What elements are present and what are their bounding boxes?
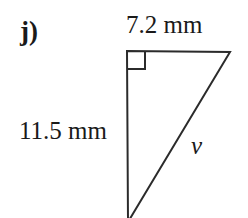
top-side-measurement-label: 7.2 mm xyxy=(126,12,202,37)
right-angle-marker-icon xyxy=(127,51,145,69)
hypotenuse-variable-label: v xyxy=(191,133,202,158)
left-side-measurement-label: 11.5 mm xyxy=(19,118,107,143)
right-triangle-shape xyxy=(127,51,230,218)
part-label: j) xyxy=(20,18,38,45)
geometry-figure: j) 7.2 mm 11.5 mm v xyxy=(0,0,248,218)
